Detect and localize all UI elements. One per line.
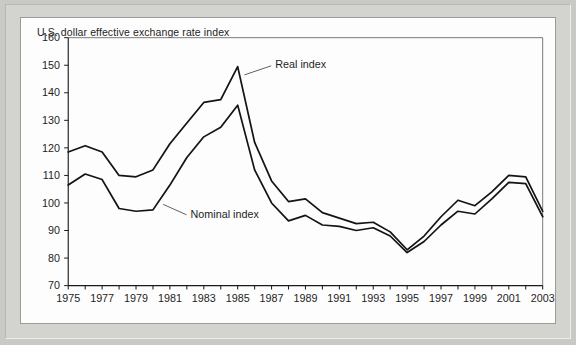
x-tick-label: 1985 [226,293,250,305]
chart-card: U.S. dollar effective exchange rate inde… [21,18,555,323]
annotation-group: Real indexNominal index [163,58,327,219]
y-tick-label: 110 [43,169,60,181]
x-tick-label: 1991 [327,293,351,305]
y-tick-label: 160 [42,32,60,44]
x-tick-label: 1999 [463,293,487,305]
nominal-index-leader-line [163,204,186,214]
x-tick-label: 1987 [260,293,284,305]
real-index-leader-line [244,66,271,75]
y-tick-label: 100 [42,197,60,209]
nominal-index-label: Nominal index [191,208,260,220]
y-tick-label: 130 [42,114,60,126]
x-tick-label: 1997 [429,293,453,305]
series-line-real-index [68,67,542,250]
y-tick-label: 70 [48,280,60,292]
y-tick-label: 140 [42,87,60,99]
y-tick-label: 120 [42,142,60,154]
line-chart: 7080901001101201301401501601975197719791… [21,18,555,323]
x-tick-label: 1975 [56,293,80,305]
x-tick-label: 1979 [124,293,148,305]
real-index-label: Real index [275,58,327,70]
page-frame-inner: U.S. dollar effective exchange rate inde… [20,17,556,324]
x-tick-label: 1989 [293,293,317,305]
x-tick-label: 1995 [395,293,419,305]
axes-group: 7080901001101201301401501601975197719791… [42,32,555,305]
x-tick-label: 2003 [531,293,555,305]
figure-root: U.S. dollar effective exchange rate inde… [0,0,576,345]
x-tick-label: 1993 [361,293,385,305]
y-tick-label: 80 [48,252,60,264]
x-tick-label: 1977 [90,293,114,305]
y-tick-label: 150 [42,59,60,71]
y-tick-label: 90 [48,224,60,236]
x-tick-label: 2001 [497,293,521,305]
series-line-nominal-index [68,105,542,252]
page-frame-outer: U.S. dollar effective exchange rate inde… [5,4,571,339]
x-tick-label: 1983 [192,293,216,305]
x-tick-label: 1981 [158,293,182,305]
series-group [68,67,542,253]
